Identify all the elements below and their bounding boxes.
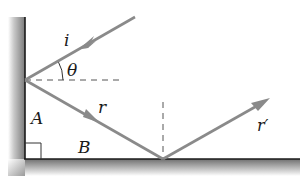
- label-b: B: [77, 137, 91, 157]
- label-incident: i: [64, 30, 69, 50]
- incident-ray: [25, 17, 135, 80]
- horizontal-mirror: [8, 159, 300, 176]
- reflection-diagram: i θ r r′ A B: [0, 0, 300, 182]
- reflected-ray-r: [25, 80, 163, 159]
- label-a: A: [29, 108, 43, 128]
- vertical-mirror: [8, 17, 25, 160]
- label-theta: θ: [67, 60, 77, 80]
- label-r: r: [98, 97, 107, 117]
- reflected-ray-r-prime: [163, 98, 270, 159]
- right-angle-marker: [25, 143, 41, 159]
- angle-arc: [58, 61, 63, 80]
- label-r-prime: r′: [257, 116, 269, 135]
